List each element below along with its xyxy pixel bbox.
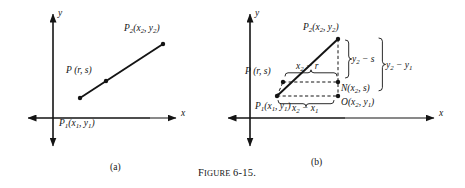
panel-b-point-o — [336, 94, 340, 98]
figure-caption-number: 6-15. — [233, 167, 256, 178]
panel-b-label-y2-minus-y1: y2 − y1 — [386, 61, 412, 71]
panel-a-point-p — [104, 79, 108, 83]
figure-vector-graphics — [0, 0, 465, 188]
panel-b-label-p2: P2(x2, y2) — [303, 23, 339, 33]
figure-6-15: P1(x1, y1) P (r, s) P2(x2, y2) x y (a) P… — [0, 0, 465, 188]
panel-b-point-p1 — [275, 94, 279, 98]
panel-b-label-o: O(x2, y1) — [341, 98, 374, 108]
figure-caption: FIGURE 6-15. — [198, 167, 256, 179]
panel-b-point-p — [281, 80, 285, 84]
panel-a-point-p2 — [161, 42, 165, 46]
panel-b-label-x2-minus-r: x2 − r — [296, 62, 318, 72]
panel-b-point-n — [336, 80, 340, 84]
panel-b-point-p2 — [336, 37, 340, 41]
panel-b-label-x2-minus-x1: x2 − x1 — [292, 104, 318, 114]
panel-b-y-axis-label: y — [255, 9, 259, 19]
panel-b-axes — [228, 14, 434, 146]
panel-a-y-axis-label: y — [58, 9, 62, 19]
panel-a-label-p: P (r, s) — [66, 66, 92, 76]
panel-b-x-axis-label: x — [439, 109, 443, 119]
panel-a-label-p2: P2(x2, y2) — [124, 24, 160, 34]
panel-b-label-y2-minus-s: y2 − s — [352, 55, 374, 65]
panel-a-point-p1 — [78, 96, 82, 100]
brace-y2-minus-y1 — [379, 38, 386, 91]
panel-a-tag: (a) — [110, 163, 121, 173]
panel-a-label-p1: P1(x1, y1) — [59, 119, 95, 129]
panel-b-label-p1: P1(x1, y1) — [255, 102, 291, 112]
panel-b-tag: (b) — [311, 158, 322, 168]
panel-b-label-n: N(x2, s) — [341, 84, 370, 94]
figure-caption-word: IGURE — [204, 169, 231, 178]
panel-b-label-p: P (r, s) — [245, 67, 271, 77]
panel-a-line-p1-p2 — [80, 44, 163, 98]
panel-a-x-axis-label: x — [181, 109, 185, 119]
brace-y2-minus-s — [346, 40, 352, 78]
